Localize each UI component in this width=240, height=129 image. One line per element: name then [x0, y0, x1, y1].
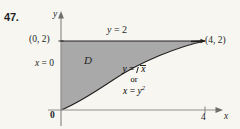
region-label-d: D [84, 55, 92, 66]
boundary-label-x-equals-0: x = 0 [35, 59, 54, 69]
curve-equation-group: y = x or x = y2 [108, 65, 160, 97]
point-label-4-2: (4, 2) [205, 36, 226, 46]
curve-eq-1-op: = [127, 64, 137, 74]
boundary-label-y-equals-2: y = 2 [107, 25, 127, 35]
y-axis-label: y [53, 10, 57, 20]
x-tick-label-4: 4 [201, 113, 206, 123]
x-axis-arrow-icon [216, 107, 224, 113]
y-axis-arrow-icon [58, 11, 64, 19]
x-equals-0-op: = [39, 58, 49, 68]
y-equals-2-op: = [111, 24, 122, 35]
curve-equation-sqrt: y = x [108, 65, 160, 75]
x-axis-label: x [224, 112, 228, 122]
curve-equation-squared: x = y2 [108, 85, 160, 97]
curve-eq-2-op: = [127, 86, 137, 96]
x-equals-0-rhs: 0 [49, 58, 54, 68]
radical-bar [140, 65, 146, 66]
curve-equation-connector: or [108, 75, 160, 84]
origin-label: 0 [50, 111, 55, 121]
problem-number: 47. [4, 12, 19, 23]
y-equals-2-rhs: 2 [122, 24, 127, 35]
curve-eq-2-exponent: 2 [142, 84, 145, 91]
region-diagram-figure: 47. y x 0 4 (0, 2) (4, 2) y = 2 x = 0 D … [0, 0, 240, 129]
point-label-0-2: (0, 2) [29, 35, 50, 45]
square-root-icon: x [137, 65, 146, 75]
